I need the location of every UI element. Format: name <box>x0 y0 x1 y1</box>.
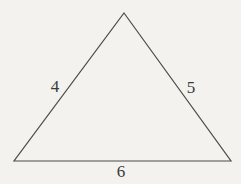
side-label-bottom: 6 <box>117 162 126 181</box>
triangle-shape <box>14 13 231 161</box>
side-label-left: 4 <box>51 77 60 96</box>
side-label-right: 5 <box>187 78 196 97</box>
triangle-svg: 4 5 6 <box>0 0 241 184</box>
triangle-figure: 4 5 6 <box>0 0 241 184</box>
